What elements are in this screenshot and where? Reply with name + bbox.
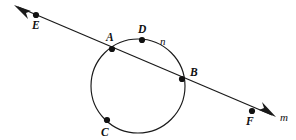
point-f-label: F <box>245 115 254 127</box>
point-c-label: C <box>101 126 109 138</box>
geometry-canvas: E A D B C F n m <box>0 0 296 140</box>
line-m-label: m <box>280 111 288 123</box>
point-f-dot <box>249 108 255 114</box>
point-b-dot <box>179 76 185 82</box>
point-d-label: D <box>137 23 147 35</box>
point-e-dot <box>33 12 39 18</box>
point-c-dot <box>104 117 110 123</box>
point-e-label: E <box>31 19 40 31</box>
arrowhead-right-icon <box>259 102 276 117</box>
point-b-label: B <box>189 66 198 78</box>
point-a-dot <box>109 46 115 52</box>
point-d-dot <box>139 37 145 43</box>
geometry-figure: E A D B C F n m <box>0 0 296 140</box>
point-a-label: A <box>105 31 114 43</box>
circle-n-label: n <box>160 35 166 47</box>
arrowhead-left-icon <box>14 5 31 19</box>
